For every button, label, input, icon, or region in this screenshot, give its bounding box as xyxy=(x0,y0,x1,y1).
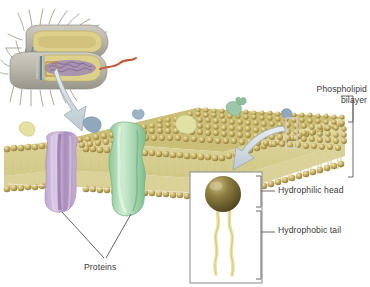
peripheral-protein-yellowgreen xyxy=(175,115,196,134)
green-transmembrane-protein xyxy=(109,122,146,216)
inset-head-sphere xyxy=(205,176,241,212)
diagram-canvas: Phospholipid bilayer Hydrophilic head Hy… xyxy=(0,0,370,287)
label-proteins: Proteins xyxy=(84,262,116,273)
membrane-diagram-svg xyxy=(0,0,370,287)
peripheral-protein-small-blue xyxy=(132,110,144,120)
peripheral-protein-yellow-left xyxy=(19,122,35,136)
peripheral-protein-blue xyxy=(83,117,101,133)
cytoplasm-inner-upper xyxy=(38,36,96,48)
leader-proteins xyxy=(62,212,131,258)
bracket-bilayer xyxy=(348,100,353,177)
label-hydrophobic-tail: Hydrophobic tail xyxy=(278,225,341,236)
inset-head-highlight xyxy=(210,182,223,191)
label-phospholipid-bilayer: Phospholipid bilayer xyxy=(317,84,367,105)
phospholipid-inset xyxy=(190,172,262,283)
purple-channel-protein xyxy=(45,132,77,212)
label-hydrophilic-head: Hydrophilic head xyxy=(278,185,344,196)
bacterium-illustration xyxy=(0,9,136,106)
